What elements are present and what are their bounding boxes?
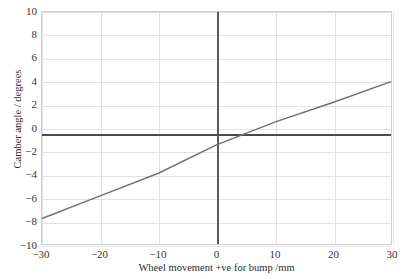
- x-tick-label: −20: [80, 249, 120, 260]
- y-tick-label: 10: [11, 6, 37, 17]
- camber-angle-chart: 1086420−2−4−6−8−10 −30−20−100102030 Whee…: [0, 0, 407, 279]
- x-axis-tick-labels: −30−20−100102030: [41, 249, 392, 263]
- y-axis-title: Camber angle / degrees: [12, 39, 24, 199]
- x-tick-label: 10: [255, 249, 295, 260]
- x-tick-label: 30: [372, 249, 407, 260]
- x-tick-label: −30: [21, 249, 61, 260]
- x-tick-label: 0: [197, 249, 237, 260]
- camber-angle-line: [42, 82, 391, 219]
- gridline-vertical: [393, 12, 394, 244]
- x-axis-title: Wheel movement +ve for bump /mm: [41, 262, 392, 274]
- x-tick-label: 20: [314, 249, 354, 260]
- plot-area: [41, 11, 392, 245]
- data-series-layer: [42, 12, 391, 244]
- y-tick-label: −8: [11, 216, 37, 227]
- gridline-horizontal: [42, 246, 391, 247]
- x-tick-label: −10: [138, 249, 178, 260]
